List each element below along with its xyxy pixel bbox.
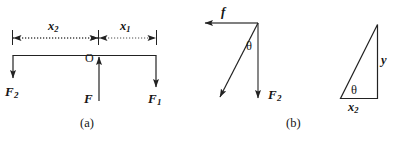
dimension-ticks: [13, 30, 157, 45]
label-force-f-center: F: [84, 92, 93, 107]
label-x1: x1: [120, 20, 131, 33]
label-force-f2-left: F2: [5, 85, 19, 100]
angle-triangle: [341, 25, 378, 99]
vector-arrow-resultant: [220, 23, 258, 97]
label-theta-triangle: θ: [351, 84, 357, 97]
figure-vector-graphics: [0, 0, 394, 145]
label-vector-f2: F2: [268, 88, 282, 103]
caption-panel-b: (b): [286, 117, 301, 130]
label-pivot-o: O: [85, 52, 94, 64]
dimension-line-x1: [99, 35, 156, 41]
dimension-line-x2: [13, 35, 98, 41]
label-force-f1-right: F1: [148, 92, 162, 107]
figure-root: x2 x1 O F2 F F1 (a) f θ F2 y θ x2 (b): [0, 0, 394, 145]
caption-panel-a: (a): [80, 117, 94, 130]
label-x2: x2: [48, 20, 59, 33]
label-triangle-x2: x2: [348, 101, 359, 114]
label-vector-f: f: [221, 5, 226, 20]
label-triangle-y: y: [381, 54, 387, 67]
label-theta-vectors: θ: [246, 40, 252, 53]
